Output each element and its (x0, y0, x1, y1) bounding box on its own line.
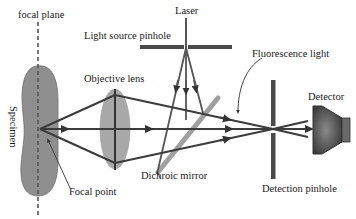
detector-label: Detector (308, 92, 344, 103)
laser-label: Laser (175, 6, 198, 17)
detection-pinhole-top (271, 80, 276, 126)
light-source-pinhole-right (188, 45, 232, 49)
objective-lens-label: Objective lens (84, 74, 144, 85)
dichroic-mirror-label: Dichroic mirror (141, 171, 207, 182)
excitation-beams (157, 48, 203, 174)
detection-pinhole-label: Detection pinhole (262, 184, 337, 195)
detection-pinhole-bottom (271, 133, 276, 179)
specimen-shape (21, 66, 58, 196)
light-source-pinhole-label: Light source pinhole (84, 31, 171, 42)
focal-point-label: Focal point (69, 187, 117, 198)
detector-icon (313, 106, 350, 154)
fluorescence-pointer (238, 58, 262, 112)
dichroic-mirror (158, 98, 218, 172)
specimen-label: Specimen (8, 106, 19, 147)
light-source-pinhole-left (140, 45, 184, 49)
fluorescence-light-label: Fluorescence light (252, 49, 329, 60)
focal-plane-label: focal plane (18, 10, 64, 21)
